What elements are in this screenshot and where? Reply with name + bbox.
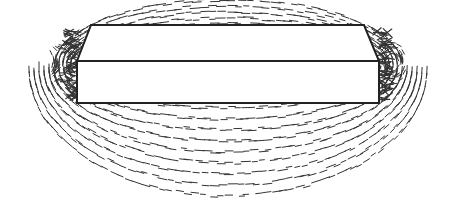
magnet-front-face xyxy=(77,61,379,103)
magnet-top-face xyxy=(77,25,379,61)
bar-magnet xyxy=(0,0,453,215)
diagram-canvas xyxy=(0,0,453,215)
